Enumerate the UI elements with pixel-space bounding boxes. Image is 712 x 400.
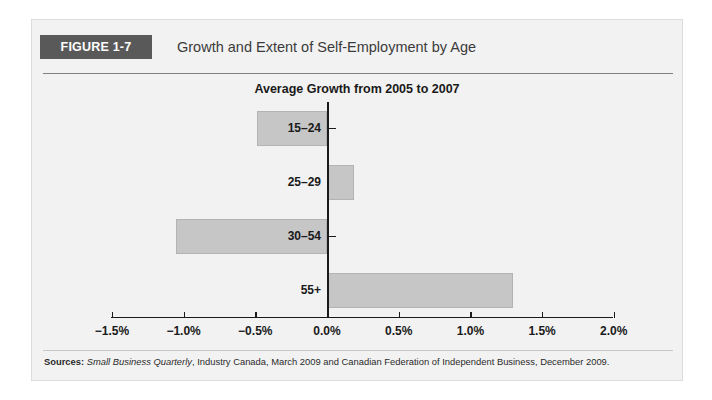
source-note: Sources: Small Business Quarterly, Indus… (44, 356, 672, 368)
source-rest: , Industry Canada, March 2009 and Canadi… (192, 356, 609, 367)
bar (327, 273, 513, 308)
axis-tick-label: −1.0% (156, 324, 212, 338)
x-axis-line (111, 317, 613, 318)
category-tick (329, 128, 336, 129)
x-axis: −1.5%−1.0%−0.5%0.0%0.5%1.0%1.5%2.0% (32, 317, 684, 351)
chart-subtitle: Average Growth from 2005 to 2007 (32, 82, 682, 96)
axis-tick-label: 1.5% (514, 324, 570, 338)
header-divider (43, 73, 673, 74)
category-label: 25–29 (261, 165, 321, 200)
chart-plot-area: 15–2425–2930–5455+ (32, 102, 684, 317)
category-label: 15–24 (261, 111, 321, 146)
zero-axis-line (327, 102, 329, 317)
axis-tick (112, 312, 113, 318)
category-label: 30–54 (261, 219, 321, 254)
source-label: Sources: (44, 356, 84, 367)
bar-row: 15–24 (32, 102, 684, 156)
bar-row: 30–54 (32, 210, 684, 264)
axis-tick-label: −1.5% (84, 324, 140, 338)
source-divider (43, 350, 673, 351)
figure-title: Growth and Extent of Self-Employment by … (177, 35, 476, 59)
axis-tick (184, 312, 185, 318)
axis-tick-label: 0.5% (371, 324, 427, 338)
axis-tick (614, 312, 615, 318)
bar-row: 55+ (32, 264, 684, 318)
axis-tick-label: 0.0% (299, 324, 355, 338)
axis-tick (327, 312, 328, 318)
figure-number-badge: FIGURE 1-7 (40, 35, 152, 59)
bar-row: 25–29 (32, 156, 684, 210)
axis-tick-label: −0.5% (227, 324, 283, 338)
axis-tick-label: 2.0% (586, 324, 642, 338)
source-publication: Small Business Quarterly (87, 356, 192, 367)
category-label: 55+ (261, 273, 321, 308)
category-tick (329, 236, 336, 237)
bar (327, 165, 354, 200)
figure-header: FIGURE 1-7 Growth and Extent of Self-Emp… (32, 35, 682, 61)
axis-tick (399, 312, 400, 318)
axis-tick (255, 312, 256, 318)
axis-tick (470, 312, 471, 318)
figure-panel: FIGURE 1-7 Growth and Extent of Self-Emp… (31, 19, 683, 381)
axis-tick-label: 1.0% (442, 324, 498, 338)
axis-tick (542, 312, 543, 318)
